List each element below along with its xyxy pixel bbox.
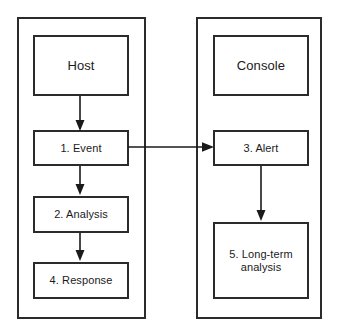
connector-event-to-alert-arrow-icon [127,133,217,161]
connector-host-to-event-arrow-icon [64,92,96,134]
node-event[interactable]: 1. Event [33,130,129,166]
node-long-term-analysis-label: 5. Long-term analysis [229,248,293,274]
node-alert-label: 3. Alert [243,142,278,155]
node-response-label: 4. Response [50,274,113,287]
diagram-canvas: Host 1. Event 2. Analysis 4. Response Co… [0,0,338,332]
node-response[interactable]: 4. Response [33,262,129,299]
node-analysis[interactable]: 2. Analysis [33,196,129,233]
connector-event-to-analysis-arrow-icon [64,164,96,198]
node-host[interactable]: Host [33,35,129,96]
node-host-label: Host [67,58,94,73]
connector-analysis-to-response-arrow-icon [64,231,96,264]
connector-alert-to-long-term-analysis-arrow-icon [245,164,277,224]
node-console-label: Console [237,58,285,73]
node-event-label: 1. Event [60,142,101,155]
node-alert[interactable]: 3. Alert [213,130,309,166]
node-analysis-label: 2. Analysis [54,208,108,221]
node-long-term-analysis[interactable]: 5. Long-term analysis [213,222,309,299]
node-console[interactable]: Console [213,35,309,96]
